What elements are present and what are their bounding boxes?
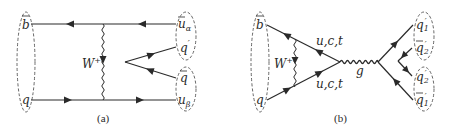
arrow-right-icon — [147, 53, 156, 60]
w-boson-label: W+ — [82, 56, 101, 71]
arrow-right-icon — [64, 97, 72, 104]
label-q-prime: q′ — [180, 39, 190, 55]
w-boson-label: W+ — [274, 56, 293, 71]
gluon-label: g — [356, 64, 364, 78]
loop-quarks-label-top: u,c,t — [316, 34, 343, 48]
label-q-bar: q — [180, 71, 188, 85]
arrow-left-icon — [146, 68, 155, 75]
caption-a: (a) — [97, 112, 110, 125]
arrow-right-icon — [136, 97, 144, 104]
loop-quarks-label-bottom: u,c,t — [316, 77, 343, 91]
label-q1-prime: q1′ — [416, 16, 429, 33]
label-q: q — [22, 93, 30, 107]
label-u-bar-alpha: uα — [178, 17, 192, 33]
label-b-bar: b — [22, 18, 30, 32]
panel-b: W+ u,c,t u,c,t g b q q1′ q2′ q2′ q1′ (b) — [251, 12, 434, 125]
caption-b: (b) — [334, 112, 347, 125]
label-q2-prime: q2′ — [416, 68, 429, 85]
feynman-diagrams: W+ b q uα q′ q uβ (a) W+ u, — [0, 0, 450, 130]
label-q: q — [256, 93, 264, 107]
label-u-beta: uβ — [178, 93, 191, 109]
arrow-left-icon — [138, 21, 146, 28]
arrow-left-icon — [66, 21, 74, 28]
label-b-bar: b — [256, 18, 264, 32]
label-q2-bar-prime: q2′ — [416, 39, 429, 56]
panel-a: W+ b q uα q′ q uβ (a) — [17, 12, 196, 125]
label-q1-bar-prime: q1′ — [416, 91, 429, 108]
